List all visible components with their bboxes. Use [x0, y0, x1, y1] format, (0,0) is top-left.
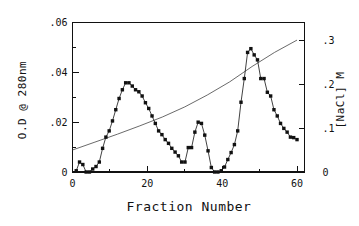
x-tick-label: 20: [141, 178, 153, 189]
data-point-marker: [140, 94, 143, 97]
data-point-marker: [285, 130, 288, 133]
data-point-marker: [98, 160, 101, 163]
data-point-marker: [256, 58, 259, 61]
y-right-tick-label: 0: [323, 167, 329, 178]
data-point-marker: [121, 88, 124, 91]
data-point-marker: [289, 135, 292, 138]
data-point-marker: [252, 53, 255, 56]
data-point-marker: [272, 108, 275, 111]
data-point-marker: [147, 107, 150, 110]
data-point-marker: [190, 146, 193, 149]
data-point-marker: [144, 101, 147, 104]
data-point-marker: [223, 165, 226, 168]
chart-figure: 0.02.04.060.1.2.30204060 O.D @ 280nm [Na…: [0, 0, 359, 226]
y-right-axis-label: [NaCl] M: [334, 72, 347, 129]
data-point-marker: [78, 160, 81, 163]
data-point-marker: [236, 129, 239, 132]
data-point-marker: [131, 84, 134, 87]
data-point-marker: [276, 114, 279, 117]
data-point-marker: [210, 166, 213, 169]
chromatography-plot: 0.02.04.060.1.2.30204060 O.D @ 280nm [Na…: [0, 0, 359, 226]
data-point-marker: [111, 119, 114, 122]
data-point-marker: [246, 51, 249, 54]
x-tick-label: 60: [291, 178, 303, 189]
data-point-marker: [157, 129, 160, 132]
y-left-tick-label: .02: [49, 117, 67, 128]
x-axis-label: Fraction Number: [127, 199, 252, 214]
data-point-marker: [173, 150, 176, 153]
data-point-marker: [226, 158, 229, 161]
data-point-marker: [295, 138, 298, 141]
data-point-marker: [94, 165, 97, 168]
od-data-line: [76, 49, 297, 172]
y-left-tick-label: 0: [61, 167, 67, 178]
data-point-marker: [180, 160, 183, 163]
data-point-marker: [187, 146, 190, 149]
data-point-marker: [134, 88, 137, 91]
data-point-marker: [262, 77, 265, 80]
data-point-marker: [279, 122, 282, 125]
data-point-marker: [124, 81, 127, 84]
data-point-marker: [91, 167, 94, 170]
data-point-marker: [216, 170, 219, 173]
data-point-marker: [114, 108, 117, 111]
y-right-tick-label: .1: [323, 123, 335, 134]
data-point-marker: [107, 129, 110, 132]
y-right-tick-label: .2: [323, 79, 335, 90]
data-point-marker: [117, 97, 120, 100]
y-right-tick-label: .3: [323, 35, 335, 46]
data-point-marker: [167, 142, 170, 145]
data-point-marker: [269, 94, 272, 97]
data-point-marker: [104, 135, 107, 138]
data-point-marker: [193, 130, 196, 133]
y-left-tick-label: .04: [49, 67, 67, 78]
data-point-marker: [137, 90, 140, 93]
data-point-marker: [84, 170, 87, 173]
data-point-marker: [229, 151, 232, 154]
y-left-axis-label: O.D @ 280nm: [16, 61, 29, 139]
data-point-marker: [220, 169, 223, 172]
data-point-marker: [81, 163, 84, 166]
y-left-tick-label: .06: [49, 17, 67, 28]
x-tick-label: 0: [69, 178, 75, 189]
data-point-marker: [213, 170, 216, 173]
data-point-marker: [203, 133, 206, 136]
data-point-marker: [292, 136, 295, 139]
data-point-marker: [101, 147, 104, 150]
data-point-marker: [200, 122, 203, 125]
data-point-marker: [164, 138, 167, 141]
data-point-marker: [233, 143, 236, 146]
data-point-marker: [282, 127, 285, 130]
data-point-marker: [160, 133, 163, 136]
data-point-marker: [177, 154, 180, 157]
nacl-gradient-line: [73, 40, 298, 150]
data-point-marker: [266, 91, 269, 94]
data-point-marker: [206, 149, 209, 152]
x-tick-label: 40: [216, 178, 228, 189]
data-point-marker: [196, 120, 199, 123]
data-point-marker: [259, 77, 262, 80]
data-point-marker: [170, 147, 173, 150]
data-point-marker: [154, 122, 157, 125]
data-point-marker: [150, 114, 153, 117]
data-point-marker: [249, 47, 252, 50]
data-point-marker: [183, 160, 186, 163]
data-point-marker: [88, 170, 91, 173]
data-point-marker: [127, 81, 130, 84]
data-point-marker: [239, 101, 242, 104]
data-point-marker: [75, 169, 78, 172]
data-point-marker: [243, 77, 246, 80]
